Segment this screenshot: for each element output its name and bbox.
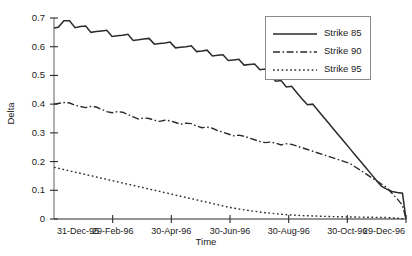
y-axis-tick-label: 0.5 — [17, 70, 45, 80]
legend-label: Strike 90 — [324, 45, 362, 56]
y-axis-tick-label: 0.2 — [17, 157, 45, 167]
series-line-strike-95 — [54, 167, 406, 219]
legend-item-strike-95: Strike 95 — [266, 59, 372, 77]
chart-legend: Strike 85Strike 90Strike 95 — [265, 16, 371, 80]
legend-item-strike-85: Strike 85 — [266, 23, 372, 41]
y-axis-tick-label: 0.7 — [17, 13, 45, 23]
y-axis-tick-label: 0.6 — [17, 42, 45, 52]
legend-swatch-dashdot — [272, 44, 318, 56]
x-axis-tick-label: 30-Aug-96 — [268, 226, 310, 236]
y-axis-title: Delta — [5, 90, 16, 138]
legend-swatch-solid — [272, 26, 318, 38]
x-axis-tick-label: 30-Jun-96 — [210, 226, 251, 236]
series-line-strike-90 — [54, 102, 406, 219]
x-axis-tick-label: 29-Dec-96 — [363, 226, 405, 236]
y-axis-tick-label: 0.1 — [17, 185, 45, 195]
legend-label: Strike 85 — [324, 27, 362, 38]
x-axis-title: Time — [0, 236, 412, 247]
delta-vs-time-chart: 0.70.60.50.40.30.20.10 31-Dec-9529-Feb-9… — [0, 0, 412, 256]
x-axis-tick-label: 30-Oct-96 — [327, 226, 367, 236]
x-axis-tick-label: 30-Apr-96 — [151, 226, 191, 236]
x-axis-tick-label: 29-Feb-96 — [92, 226, 134, 236]
y-axis-tick-label: 0.4 — [17, 99, 45, 109]
y-axis-tick-label: 0 — [17, 214, 45, 224]
legend-label: Strike 95 — [324, 63, 362, 74]
y-axis-tick-label: 0.3 — [17, 128, 45, 138]
legend-item-strike-90: Strike 90 — [266, 41, 372, 59]
legend-swatch-dotted — [272, 62, 318, 74]
